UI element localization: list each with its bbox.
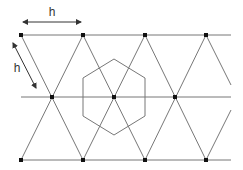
node-dot	[81, 33, 85, 37]
node-dot	[19, 33, 23, 37]
horizontal-spacing-label: h	[49, 5, 56, 19]
node-dot	[204, 33, 208, 37]
node-dot	[204, 158, 208, 162]
diagonal-spacing-label: h	[14, 61, 21, 75]
node-dot	[81, 158, 85, 162]
node-dot	[143, 33, 147, 37]
node-dot	[143, 158, 147, 162]
node-dot	[50, 95, 54, 99]
diagonal-line	[206, 110, 231, 160]
node-dot	[112, 95, 116, 99]
node-dot	[173, 95, 177, 99]
triangular-lattice-diagram: h h	[0, 0, 243, 170]
diagonal-line	[206, 35, 231, 85]
node-dot	[19, 158, 23, 162]
